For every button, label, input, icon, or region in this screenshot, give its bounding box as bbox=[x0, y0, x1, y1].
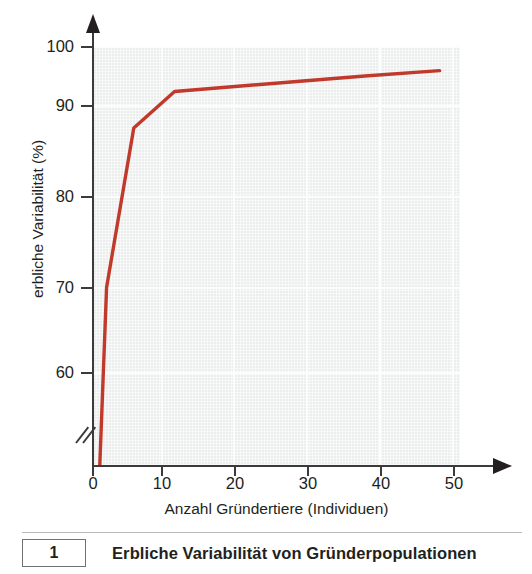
x-axis-line bbox=[93, 465, 497, 467]
y-axis-break-icon bbox=[76, 428, 98, 446]
figure-number-box: 1 bbox=[22, 539, 86, 567]
x-tick-label-50: 50 bbox=[434, 474, 474, 493]
y-tick-70 bbox=[81, 287, 93, 289]
y-axis-title: erbliche Variabilität (%) bbox=[29, 94, 47, 344]
figure-erbliche-variabilitaet: 100 90 80 70 60 0 10 20 30 40 50 erblich… bbox=[0, 0, 532, 574]
x-tick-label-10: 10 bbox=[142, 474, 182, 493]
x-tick-label-0: 0 bbox=[73, 474, 113, 493]
chart: 100 90 80 70 60 0 10 20 30 40 50 erblich… bbox=[0, 0, 532, 530]
y-tick-label-60: 60 bbox=[28, 363, 74, 382]
y-tick-90 bbox=[81, 105, 93, 107]
y-axis-arrow-icon bbox=[86, 14, 100, 33]
y-tick-100 bbox=[81, 46, 93, 48]
y-tick-label-100: 100 bbox=[28, 37, 74, 56]
x-axis-arrow-icon bbox=[493, 458, 512, 474]
plot-area bbox=[93, 46, 460, 465]
x-tick-label-20: 20 bbox=[215, 474, 255, 493]
caption-divider bbox=[22, 532, 522, 533]
x-tick-label-40: 40 bbox=[361, 474, 401, 493]
x-axis-title: Anzahl Gründertiere (Individuen) bbox=[93, 500, 460, 518]
figure-caption-text: Erbliche Variabilität von Gründerpopulat… bbox=[112, 544, 477, 563]
y-tick-80 bbox=[81, 196, 93, 198]
y-tick-60 bbox=[81, 372, 93, 374]
x-tick-label-30: 30 bbox=[288, 474, 328, 493]
data-series-line bbox=[93, 46, 460, 465]
y-axis-line bbox=[92, 30, 94, 467]
figure-caption: 1 Erbliche Variabilität von Gründerpopul… bbox=[22, 538, 522, 568]
